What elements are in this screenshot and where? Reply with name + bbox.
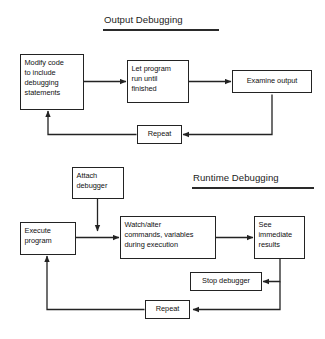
node-watch-alter: Watch/alter commands, variables during e… [120,216,216,259]
diagram-canvas: Output Debugging Modify code to include … [0,0,325,339]
node-see-results: See immediate results [254,216,305,259]
node-repeat-output-label: Repeat [148,129,172,139]
node-see-results-line-3: results [259,240,301,250]
node-attach-debugger-line-2: debugger [77,181,120,191]
node-see-results-line-1: See [259,220,301,230]
edge-repeat-to-execute [47,256,145,310]
connector-layer [0,0,325,339]
node-repeat-runtime: Repeat [145,300,190,319]
node-watch-alter-line-3: during execution [125,240,212,250]
node-stop-debugger-label: Stop debugger [202,276,250,286]
node-examine-output-label: Examine output [247,76,298,86]
node-stop-debugger: Stop debugger [190,272,262,291]
edge-see-to-stop [263,259,280,282]
node-modify-code-line-4: statements [25,88,80,98]
node-attach-debugger-line-1: Attach [77,171,120,181]
node-let-program-run-line-2: run until [132,74,185,84]
section-title-runtime-underline [192,187,314,189]
node-let-program-run: Let program run until finished [127,60,189,103]
node-modify-code-line-2: to include [25,68,80,78]
section-title-output-debugging: Output Debugging [104,14,183,25]
node-examine-output: Examine output [232,70,312,93]
node-repeat-runtime-label: Repeat [156,304,180,314]
edge-repeat-to-modify [48,111,137,135]
edge-examine-to-repeat [183,95,272,135]
node-execute-program-line-2: program [25,236,72,246]
node-modify-code-line-3: debugging [25,78,80,88]
node-modify-code: Modify code to include debugging stateme… [20,54,84,110]
node-watch-alter-line-1: Watch/alter [125,220,212,230]
section-title-output-underline [103,29,219,31]
node-let-program-run-line-3: finished [132,84,185,94]
node-see-results-line-2: immediate [259,230,301,240]
node-attach-debugger: Attach debugger [72,167,124,199]
node-watch-alter-line-2: commands, variables [125,230,212,240]
node-let-program-run-line-1: Let program [132,64,185,74]
node-repeat-output: Repeat [137,125,182,144]
node-modify-code-line-1: Modify code [25,58,80,68]
section-title-runtime-debugging: Runtime Debugging [193,172,279,183]
node-execute-program: Execute program [20,222,76,255]
node-execute-program-line-1: Execute [25,226,72,236]
